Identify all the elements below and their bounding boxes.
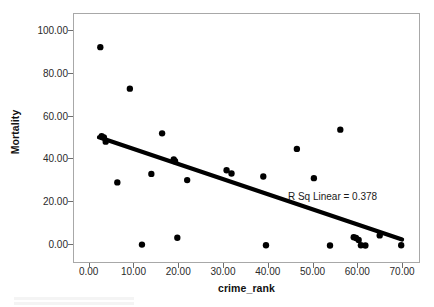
scatter-plot-figure: Mortality 0.0020.0040.0060.0080.00100.00… <box>0 0 434 307</box>
x-tick-mark <box>402 263 403 268</box>
x-axis-title: crime_rank <box>73 282 420 294</box>
scatter-point <box>311 175 317 181</box>
data-layer <box>73 13 420 263</box>
scatter-point <box>337 126 343 132</box>
y-tick-mark <box>68 244 73 245</box>
x-tick-mark <box>89 263 90 268</box>
scatter-point <box>114 179 120 185</box>
r-squared-annotation: R Sq Linear = 0.378 <box>288 191 377 202</box>
figure-caption-fragment <box>14 297 134 304</box>
scatter-point <box>97 44 103 50</box>
y-tick-label: 60.00 <box>20 110 68 121</box>
y-tick-label: 80.00 <box>20 67 68 78</box>
x-tick-mark <box>133 263 134 268</box>
scatter-point <box>172 158 178 164</box>
scatter-point <box>127 85 133 91</box>
scatter-point <box>398 242 404 248</box>
y-tick-mark <box>68 201 73 202</box>
scatter-point <box>159 130 165 136</box>
x-tick-mark <box>268 263 269 268</box>
scatter-point <box>184 177 190 183</box>
y-tick-label: 100.00 <box>20 25 68 36</box>
scatter-point <box>174 235 180 241</box>
y-tick-mark <box>68 73 73 74</box>
y-tick-label: 20.00 <box>20 196 68 207</box>
y-tick-mark <box>68 158 73 159</box>
scatter-point <box>327 242 333 248</box>
x-tick-mark <box>223 263 224 268</box>
y-tick-label: 0.00 <box>20 238 68 249</box>
x-tick-mark <box>178 263 179 268</box>
scatter-point <box>362 242 368 248</box>
x-tick-mark <box>313 263 314 268</box>
regression-fit-line <box>99 137 402 239</box>
scatter-point <box>103 138 109 144</box>
scatter-point <box>263 242 269 248</box>
scatter-point <box>148 171 154 177</box>
y-tick-mark <box>68 116 73 117</box>
x-tick-mark <box>357 263 358 268</box>
y-tick-label: 40.00 <box>20 153 68 164</box>
scatter-point <box>377 232 383 238</box>
y-tick-mark <box>68 30 73 31</box>
y-axis-tick-labels: 0.0020.0040.0060.0080.00100.00 <box>16 0 68 307</box>
scatter-point <box>139 241 145 247</box>
scatter-point <box>228 170 234 176</box>
scatter-point <box>260 173 266 179</box>
x-axis-title-text: crime_rank <box>218 282 275 294</box>
scatter-point <box>294 146 300 152</box>
